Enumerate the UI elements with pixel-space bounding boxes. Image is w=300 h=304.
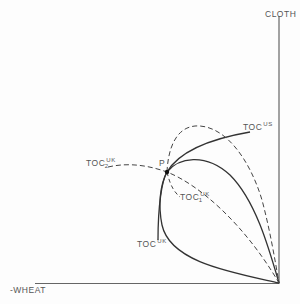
toc-uk-1-leader bbox=[167, 172, 180, 197]
toc-uk-1-curve bbox=[167, 126, 279, 283]
toc-uk-2-label: TOCUK2 bbox=[86, 158, 108, 168]
toc-uk-2-curve bbox=[108, 165, 279, 283]
equilibrium-point-p bbox=[165, 170, 169, 174]
cloth-axis-label: CLOTH bbox=[265, 9, 296, 19]
toc-us-label: TOCUS bbox=[243, 122, 273, 132]
wheat-axis-label: -WHEAT bbox=[10, 285, 46, 295]
toc-uk-label: TOCUK bbox=[137, 239, 167, 249]
point-p-label: P bbox=[159, 158, 165, 168]
diagram-svg bbox=[0, 0, 300, 304]
toc-us-curve-loop bbox=[167, 160, 279, 283]
trade-offer-curve-diagram: CLOTH -WHEAT P TOCUS TOCUK2 TOCUK1 TOCUK bbox=[0, 0, 300, 304]
toc-uk-1-label: TOCUK1 bbox=[180, 192, 202, 202]
